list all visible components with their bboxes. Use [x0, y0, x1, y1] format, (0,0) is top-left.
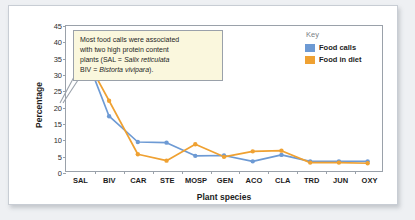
legend: Key Food callsFood in diet — [305, 30, 383, 67]
x-tick-3 — [153, 171, 154, 174]
y-axis-title: Percentage — [34, 82, 44, 128]
data-point — [365, 161, 369, 165]
legend-swatch-icon — [305, 44, 315, 52]
x-axis-title: Plant species — [65, 192, 383, 202]
y-tick-label-40: 40 — [54, 38, 62, 47]
data-point — [337, 160, 341, 164]
callout-line-4-suffix: ). — [149, 66, 153, 73]
data-point — [164, 140, 168, 144]
data-point — [222, 155, 226, 159]
y-tick-label-35: 35 — [54, 54, 62, 63]
data-point — [193, 142, 197, 146]
y-tick-label-0: 0 — [58, 169, 62, 178]
y-tick-0 — [63, 173, 66, 174]
x-tick-4 — [182, 171, 183, 174]
x-tick-5 — [211, 171, 212, 174]
annotation-callout: Most food calls were associated with two… — [73, 30, 223, 81]
y-tick-label-15: 15 — [54, 120, 62, 129]
callout-species-2: Bistorta vivipara — [99, 66, 149, 73]
data-point — [279, 153, 283, 157]
data-point — [107, 114, 111, 118]
y-tick-label-45: 45 — [54, 22, 62, 31]
x-tick-1 — [95, 171, 96, 174]
callout-line-1: Most food calls were associated — [80, 36, 179, 43]
data-point — [164, 159, 168, 163]
x-tick-9 — [326, 171, 327, 174]
x-tick-label-MOSP: MOSP — [185, 176, 207, 185]
callout-line-2: with two high protein content — [80, 46, 169, 53]
data-point — [193, 154, 197, 158]
x-tick-6 — [239, 171, 240, 174]
x-tick-label-CAR: CAR — [130, 176, 146, 185]
legend-item-food-in-diet[interactable]: Food in diet — [305, 55, 383, 64]
x-tick-label-TRD: TRD — [304, 176, 319, 185]
x-tick-7 — [268, 171, 269, 174]
callout-species-1: Salix reticulata — [124, 56, 170, 63]
x-tick-label-BIV: BIV — [103, 176, 116, 185]
x-tick-label-STE: STE — [160, 176, 175, 185]
data-point — [308, 160, 312, 164]
x-tick-label-SAL: SAL — [73, 176, 88, 185]
legend-label: Food calls — [319, 43, 356, 52]
legend-item-food-calls[interactable]: Food calls — [305, 43, 383, 52]
legend-swatch-icon — [305, 56, 315, 64]
x-tick-label-GEN: GEN — [217, 176, 233, 185]
y-tick-label-10: 10 — [54, 136, 62, 145]
chart-card: Percentage Plant species 051015202530354… — [8, 5, 398, 205]
callout-line-4-prefix: BIV = — [80, 66, 99, 73]
x-tick-label-JUN: JUN — [333, 176, 348, 185]
x-tick-10 — [355, 171, 356, 174]
x-tick-label-ACO: ACO — [246, 176, 263, 185]
x-tick-2 — [124, 171, 125, 174]
data-point — [251, 149, 255, 153]
x-tick-8 — [297, 171, 298, 174]
legend-label: Food in diet — [319, 55, 362, 64]
data-point — [251, 159, 255, 163]
data-point — [107, 99, 111, 103]
data-point — [136, 152, 140, 156]
y-tick-label-5: 5 — [58, 152, 62, 161]
x-tick-label-CLA: CLA — [275, 176, 290, 185]
data-point — [136, 140, 140, 144]
x-tick-label-OXY: OXY — [362, 176, 378, 185]
legend-title: Key — [305, 30, 383, 39]
data-point — [279, 149, 283, 153]
callout-line-3-prefix: plants (SAL = — [80, 56, 124, 63]
